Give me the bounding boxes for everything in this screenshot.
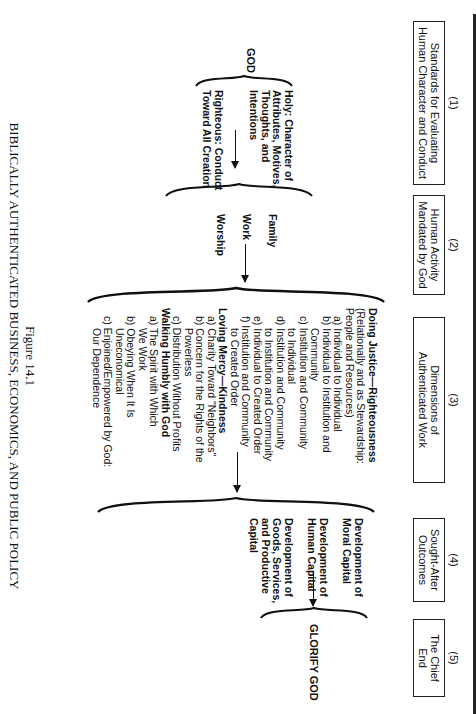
header-col4: (4) Sought-After Outcomes [413, 510, 460, 610]
outcome-moral-capital: Development of Moral Capital [341, 518, 364, 597]
activity-work: Work [241, 214, 253, 240]
header-box-outcomes: Sought-After Outcomes [413, 518, 445, 602]
header-box-activity: Human Activity Mandated by God [413, 195, 445, 294]
righteous-block: Righteous: Conduct Toward All Creation [201, 90, 224, 190]
figure-number: Figure 14.1 [23, 0, 38, 712]
header-box-chief-end: The Chief End [413, 619, 445, 697]
activity-family: Family [267, 214, 279, 247]
justice-title: Doing Justice—Righteousness [367, 308, 379, 467]
header-col3: (3) Dimensions of Authenticated Work [413, 300, 460, 500]
arrow-col1-to-col2 [235, 130, 236, 168]
header-col1: (1) Standards for Evaluating Human Chara… [413, 18, 460, 188]
brace-dimensions [86, 284, 386, 304]
brace-chief-end [259, 604, 369, 620]
arrow-col3-to-col4 [237, 452, 238, 492]
arrow-col2-to-col3 [245, 244, 246, 282]
header-col2: (2) Human Activity Mandated by God [413, 190, 460, 300]
brace-god [194, 72, 294, 88]
outcome-goods-capital: Development of Goods, Services, and Prod… [248, 518, 294, 603]
figure-title: BIBLICALLY AUTHENTICATED BUSINESS, ECONO… [7, 0, 22, 712]
justice-block: Doing Justice—Righteousness (Relationall… [91, 308, 379, 467]
mercy-title: Loving Mercy—Kindness [217, 308, 229, 467]
brace-activity [164, 180, 314, 198]
arrow-col4-to-col5 [313, 572, 314, 606]
header-box-standards: Standards for Evaluating Human Character… [413, 21, 445, 185]
outcome-human-capital: Development of Human Capital [306, 518, 329, 597]
header-box-dimensions: Dimensions of Authenticated Work [413, 317, 445, 483]
activity-worship: Worship [215, 214, 227, 256]
header-col5: (5) The Chief End [413, 612, 460, 704]
glorify-god: GLORIFY GOD [308, 624, 320, 701]
brace-outcomes [96, 494, 376, 514]
god-label: GOD [245, 48, 257, 73]
holy-block: Holy: Character of Attributes, Motives, … [248, 90, 294, 187]
humbly-title: Walking Humbly with God [160, 308, 172, 467]
